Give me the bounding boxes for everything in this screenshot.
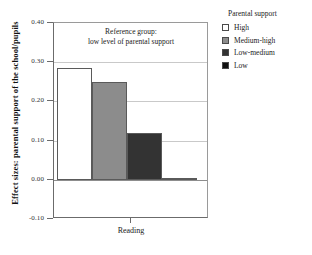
legend-title: Parental support	[228, 9, 310, 18]
legend: Parental support HighMedium-highLow-medi…	[222, 9, 310, 73]
legend-item-label: High	[234, 23, 249, 32]
y-axis-tick-label: -0.10	[0, 214, 44, 222]
legend-item-low-medium[interactable]: Low-medium	[222, 48, 310, 57]
y-axis-tick-label: 0.00	[0, 175, 44, 183]
y-axis-tick-mark	[47, 218, 53, 219]
bar-high	[57, 68, 92, 180]
y-axis-tick-label: 0.10	[0, 136, 44, 144]
legend-item-label: Low-medium	[234, 48, 275, 57]
bar-low	[162, 178, 197, 181]
bar-low-medium	[127, 133, 162, 180]
bar-series	[54, 23, 207, 217]
bar-medium-high	[92, 82, 127, 180]
x-axis-tick	[130, 218, 131, 223]
annotation-line-2: low level of parental support	[60, 37, 202, 47]
legend-swatch-icon	[222, 62, 229, 69]
y-axis-tick-label: 0.30	[0, 57, 44, 65]
y-axis-title: Effect sizes: parental support of the sc…	[10, 3, 20, 223]
legend-item-high[interactable]: High	[222, 23, 310, 32]
legend-swatch-icon	[222, 49, 229, 56]
chart-figure: Effect sizes: parental support of the sc…	[0, 0, 312, 255]
reference-group-annotation: Reference group: low level of parental s…	[60, 27, 202, 46]
legend-item-low[interactable]: Low	[222, 61, 310, 70]
legend-swatch-icon	[222, 24, 229, 31]
legend-items: HighMedium-highLow-mediumLow	[222, 23, 310, 70]
legend-item-medium-high[interactable]: Medium-high	[222, 36, 310, 45]
x-axis-category-label: Reading	[95, 226, 167, 235]
legend-item-label: Medium-high	[234, 36, 275, 45]
annotation-line-1: Reference group:	[60, 27, 202, 37]
y-axis-tick-label: 0.20	[0, 96, 44, 104]
legend-swatch-icon	[222, 37, 229, 44]
legend-item-label: Low	[234, 61, 248, 70]
plot-area	[53, 22, 208, 218]
y-axis-tick-label: 0.40	[0, 18, 44, 26]
